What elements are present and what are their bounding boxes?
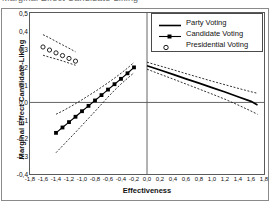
x-tick-label: 0,2: [156, 176, 164, 182]
x-tick-label: 0,8: [195, 176, 203, 182]
x-tick-label: -1,8: [25, 176, 35, 182]
legend-symbol-line-with-markers: [156, 28, 186, 39]
legend-symbol-open-circle: [156, 39, 186, 50]
x-tick-label: 1,6: [247, 176, 255, 182]
data-series-lines: [56, 66, 258, 133]
caption-text: Marginal Effect Candidate-Liking: [2, 0, 138, 3]
y-tick-label: 0,5: [19, 10, 28, 17]
chart-legend: Party Voting Candidate Voting Presidenti…: [151, 13, 263, 52]
confidence-interval-lines: [43, 35, 258, 153]
y-tick-label: -0,3: [17, 153, 28, 160]
x-tick-label: 0,6: [182, 176, 190, 182]
figure-container: Marginal Effect Candidate-Liking Margina…: [0, 0, 271, 203]
legend-symbol-solid-line: [156, 17, 186, 28]
x-axis-tick-labels: -1,8-1,6-1,4-1,2-1,0-0,8-0,6-0,4-0,20,00…: [29, 176, 265, 186]
legend-item-presidential-voting: Presidential Voting: [156, 39, 258, 50]
y-tick-label: 0,0: [19, 99, 28, 106]
y-tick-label: 0,1: [19, 81, 28, 88]
x-tick-label: 1,2: [221, 176, 229, 182]
x-tick-label: -1,0: [77, 176, 87, 182]
x-tick-label: 1,4: [234, 176, 242, 182]
legend-label-party-voting: Party Voting: [186, 17, 226, 28]
y-tick-label: 0,4: [19, 27, 28, 34]
x-tick-label: 1,0: [208, 176, 216, 182]
x-tick-label: -1,2: [64, 176, 74, 182]
x-tick-label: -1,4: [51, 176, 61, 182]
y-axis-tick-labels: 0,50,40,30,20,10,0-0,1-0,2-0,3-0,4: [10, 12, 28, 175]
x-axis-title: Effectiveness: [29, 186, 265, 195]
x-tick-label: -0,8: [90, 176, 100, 182]
clipped-caption-strip: Marginal Effect Candidate-Liking: [0, 0, 271, 8]
legend-item-candidate-voting: Candidate Voting: [156, 28, 258, 39]
x-tick-label: -0,4: [116, 176, 126, 182]
legend-label-candidate-voting: Candidate Voting: [186, 28, 243, 39]
x-tick-label: -0,6: [103, 176, 113, 182]
x-tick-label: 0,4: [169, 176, 177, 182]
x-tick-label: 0,0: [143, 176, 151, 182]
y-tick-label: -0,2: [17, 135, 28, 142]
y-tick-label: 0,2: [19, 63, 28, 70]
x-tick-label: 1,8: [260, 176, 268, 182]
legend-label-presidential-voting: Presidential Voting: [186, 39, 248, 50]
x-tick-label: -1,6: [38, 176, 48, 182]
x-tick-label: -0,2: [129, 176, 139, 182]
y-tick-label: -0,1: [17, 117, 28, 124]
legend-item-party-voting: Party Voting: [156, 17, 258, 28]
y-tick-label: 0,3: [19, 45, 28, 52]
